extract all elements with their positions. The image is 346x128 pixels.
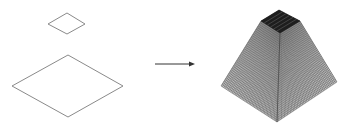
large-diamond	[12, 55, 123, 117]
diagram-canvas	[0, 0, 346, 128]
small-diamond	[48, 13, 85, 34]
source-diamonds	[12, 13, 123, 117]
arrow-head-icon	[189, 62, 195, 67]
transform-arrow	[155, 62, 195, 67]
pyramid-mesh-grid	[221, 21, 280, 122]
lofted-pyramid-mesh	[221, 10, 337, 122]
